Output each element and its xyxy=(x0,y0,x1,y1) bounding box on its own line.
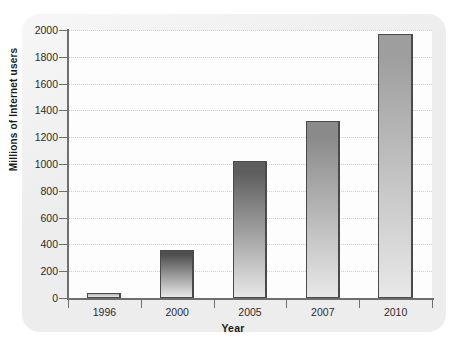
y-axis-tick xyxy=(59,137,67,138)
y-axis-tick xyxy=(59,110,67,111)
y-axis-tick-label: 600 xyxy=(12,212,58,224)
x-axis-tick xyxy=(432,300,433,308)
x-axis-tick-label: 2010 xyxy=(384,306,407,318)
gridline xyxy=(68,57,432,58)
y-axis-tick xyxy=(59,164,67,165)
x-axis-tick xyxy=(286,300,287,308)
y-axis-tick xyxy=(59,84,67,85)
y-axis-tick xyxy=(59,30,67,31)
y-axis-tick-label: 0 xyxy=(12,292,58,304)
y-axis-tick xyxy=(59,271,67,272)
y-axis-tick-label: 1800 xyxy=(12,51,58,63)
y-axis-line xyxy=(67,29,69,300)
y-axis-title: Millions of Internet users xyxy=(8,35,19,185)
chart-page: 0200400600800100012001400160018002000 Mi… xyxy=(0,0,466,351)
x-axis-tick-label: 1996 xyxy=(93,306,116,318)
y-axis-tick-label: 1200 xyxy=(12,131,58,143)
bar-2010 xyxy=(378,34,412,298)
y-axis-tick xyxy=(59,191,67,192)
x-axis-line xyxy=(67,298,434,300)
x-axis-tick-label: 2000 xyxy=(166,306,189,318)
bar-2005 xyxy=(233,161,267,298)
gridline xyxy=(68,84,432,85)
bar-2007 xyxy=(306,121,340,298)
gridline xyxy=(68,110,432,111)
x-axis-title: Year xyxy=(0,322,466,334)
y-axis-tick xyxy=(59,298,67,299)
gridline xyxy=(68,30,432,31)
y-axis-tick-label: 2000 xyxy=(12,24,58,36)
gridline xyxy=(68,137,432,138)
x-axis-tick xyxy=(214,300,215,308)
y-axis-tick-label: 200 xyxy=(12,265,58,277)
y-axis-tick-label: 800 xyxy=(12,185,58,197)
x-axis-tick-label: 2005 xyxy=(238,306,261,318)
y-axis-tick-label: 1600 xyxy=(12,78,58,90)
x-axis-tick-label: 2007 xyxy=(311,306,334,318)
y-axis-tick-label: 1000 xyxy=(12,158,58,170)
x-axis-tick xyxy=(141,300,142,308)
y-axis-tick xyxy=(59,218,67,219)
y-axis-tick xyxy=(59,57,67,58)
y-axis-tick-label: 400 xyxy=(12,238,58,250)
x-axis-tick xyxy=(68,300,69,308)
y-axis-tick xyxy=(59,244,67,245)
x-axis-tick xyxy=(359,300,360,308)
y-axis-tick-label: 1400 xyxy=(12,104,58,116)
plot-area xyxy=(68,30,432,298)
bar-2000 xyxy=(160,250,194,298)
